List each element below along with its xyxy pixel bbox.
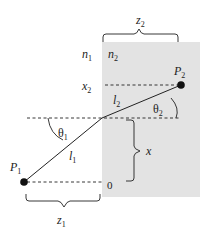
z1-label: z1 (56, 213, 66, 229)
origin-label: 0 (107, 179, 113, 191)
theta1-label: θ1 (58, 126, 68, 142)
point-p2-dot (177, 81, 185, 89)
l1-label: l1 (69, 149, 76, 165)
z2-label: z2 (135, 13, 145, 29)
medium-2-region (102, 42, 200, 197)
z1-brace (26, 194, 100, 207)
point-p1-dot (20, 178, 28, 186)
p1-label: P1 (9, 160, 21, 176)
n1-label: n1 (82, 47, 92, 63)
z2-brace (103, 29, 178, 42)
refraction-diagram: z2 n1 n2 P2 x2 l2 θ2 θ1 l1 x P1 0 z1 (0, 0, 209, 242)
x-label: x (145, 144, 152, 158)
x2-label: x2 (81, 79, 91, 95)
